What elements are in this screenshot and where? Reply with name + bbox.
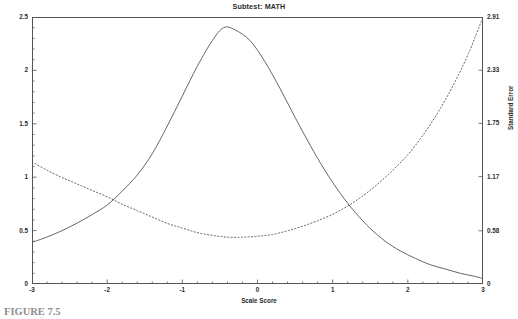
x-tick-label: 0: [248, 286, 268, 293]
y-right-tick-label: 1.17: [487, 173, 515, 180]
y-right-tick-label: 2.33: [487, 66, 515, 73]
y-right-tick-label: 2.91: [487, 13, 515, 20]
y-left-tick-label: 1.5: [1, 120, 28, 127]
x-tick-label: -2: [97, 286, 117, 293]
x-tick-label: 3: [473, 286, 493, 293]
figure-caption: FIGURE 7.5: [4, 306, 424, 317]
series-line-information: [32, 27, 483, 279]
y-right-tick-label: 0.58: [487, 227, 515, 234]
x-tick-label: 1: [323, 286, 343, 293]
y-left-tick-label: 2: [1, 66, 28, 73]
plot-area: [32, 17, 483, 284]
y-left-tick-label: 2.5: [1, 13, 28, 20]
y-left-tick-label: 0.5: [1, 227, 28, 234]
y-axis-right-title: Standard Error: [507, 86, 514, 130]
x-axis-title: Scale Score: [0, 297, 518, 304]
x-tick-label: -3: [22, 286, 42, 293]
plot-canvas: [32, 17, 483, 284]
axis-ticks-layer: [32, 17, 483, 284]
figure-root: Subtest: MATH 00.511.522.5 00.581.171.75…: [0, 0, 518, 319]
chart-title: Subtest: MATH: [0, 2, 518, 11]
y-left-tick-label: 1: [1, 173, 28, 180]
x-tick-label: 2: [398, 286, 418, 293]
x-tick-label: -1: [172, 286, 192, 293]
